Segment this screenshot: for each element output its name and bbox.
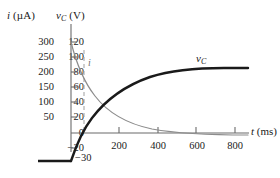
axes xyxy=(71,24,249,152)
rc-transient-chart: i (µA) vC (V) 300 250 200 150 100 50 120… xyxy=(0,0,280,178)
capacitor-voltage-curve xyxy=(71,68,248,161)
plot-area xyxy=(0,0,280,178)
current-decay-curve xyxy=(71,42,248,135)
